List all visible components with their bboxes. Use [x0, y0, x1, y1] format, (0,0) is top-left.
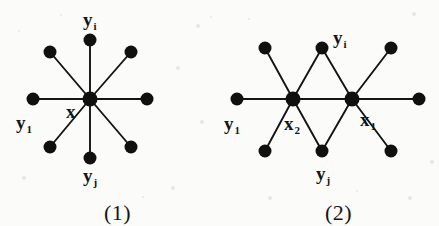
diagram-1-label-yi: yi [83, 10, 96, 29]
diagram-2-label-x2: x2 [284, 114, 299, 133]
diagram-2-label-yj: yj [316, 164, 329, 183]
node-lower-left [259, 145, 272, 158]
graph-edge [322, 99, 352, 151]
subscript: i [344, 38, 347, 50]
node-upper-left [259, 42, 272, 55]
leaf-right [141, 93, 154, 106]
diagram-2-label-yi: yi [333, 28, 346, 47]
graph-edge [90, 52, 131, 99]
scan-speckle [196, 24, 200, 28]
scan-speckle [268, 196, 272, 200]
node-far-right [413, 93, 426, 106]
graph-edge [293, 48, 322, 99]
scan-speckle [18, 30, 20, 32]
scan-speckle [142, 196, 144, 198]
scan-speckle [430, 160, 434, 164]
diagram-2-label-y1: y1 [224, 114, 239, 133]
leaf-top-left [44, 46, 57, 59]
node-lower-right [385, 145, 398, 158]
scan-speckle [210, 16, 212, 18]
graph-edge [90, 99, 131, 147]
scan-speckle [171, 186, 175, 190]
diagram-1-label-y1: y1 [16, 113, 31, 132]
figure-container: yi y1 x yj (1) yi y1 x2 x1 yj (2) [0, 0, 439, 226]
scan-speckle [248, 18, 250, 20]
leaf-top-right [125, 46, 138, 59]
subscript: i [94, 20, 97, 32]
subscript: j [327, 174, 331, 186]
diagram-2-edges [237, 48, 419, 151]
leaf-bottom-right [125, 141, 138, 154]
graph-edge [352, 48, 391, 99]
leaf-bottom-left [44, 141, 57, 154]
leaf-bottom [84, 152, 97, 165]
diagram-1-label-x: x [66, 102, 76, 121]
subscript: j [94, 176, 98, 188]
diagram-1-label-yj: yj [83, 166, 96, 185]
subscript: 1 [371, 120, 377, 132]
diagram-1-caption: (1) [104, 202, 131, 224]
graph-edge [50, 52, 90, 99]
scan-speckle [412, 12, 416, 16]
hub-x2 [286, 92, 301, 107]
hub-x [83, 92, 98, 107]
subscript: 2 [295, 124, 301, 136]
scan-speckle [200, 120, 204, 124]
diagram-2-label-x1: x1 [360, 110, 375, 129]
node-upper-right [385, 42, 398, 55]
subscript: 1 [235, 124, 241, 136]
scan-speckle [22, 176, 26, 180]
diagram-2-caption: (2) [325, 202, 352, 224]
graph-edge [322, 48, 352, 99]
leaf-top [84, 34, 97, 47]
leaf-left [27, 93, 40, 106]
scan-speckle [408, 196, 412, 200]
node-far-left [231, 93, 244, 106]
scan-speckle [60, 14, 62, 16]
node-bottom-middle [316, 145, 329, 158]
scan-speckle [176, 66, 180, 70]
subscript: 1 [27, 123, 33, 135]
scan-speckle [356, 190, 358, 192]
node-top-middle [316, 42, 329, 55]
graph-edge [265, 48, 293, 99]
hub-x1 [345, 92, 360, 107]
